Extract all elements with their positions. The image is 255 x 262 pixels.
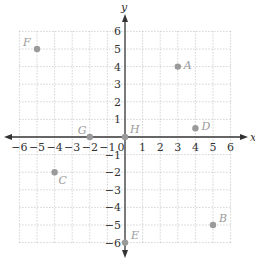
y-tick-label: 6 bbox=[114, 25, 121, 38]
point-label-c: C bbox=[59, 174, 68, 187]
point-label-d: D bbox=[200, 120, 210, 133]
y-tick-label: 4 bbox=[114, 61, 121, 74]
coordinate-plane: xy −6−5−4−3−2−10123456−6−5−4−3−2−1123456… bbox=[0, 0, 255, 262]
x-tick-label: −5 bbox=[29, 141, 45, 154]
point-c bbox=[51, 169, 57, 175]
x-tick-label: 4 bbox=[192, 141, 199, 154]
x-tick-label: 5 bbox=[210, 141, 217, 154]
point-e bbox=[122, 239, 128, 245]
x-tick-label: 3 bbox=[174, 141, 181, 154]
point-h bbox=[122, 134, 128, 140]
x-axis-label: x bbox=[250, 131, 255, 144]
x-tick-label: −3 bbox=[64, 141, 80, 154]
y-tick-label: 2 bbox=[114, 96, 121, 109]
y-axis-up-arrow-icon bbox=[122, 14, 128, 22]
x-tick-label: −4 bbox=[46, 141, 62, 154]
point-label-b: B bbox=[218, 212, 227, 225]
y-tick-label: −1 bbox=[105, 149, 121, 162]
x-tick-label: −2 bbox=[82, 141, 98, 154]
x-tick-label: 6 bbox=[227, 141, 234, 154]
y-tick-label: 3 bbox=[114, 78, 121, 91]
y-tick-label: 1 bbox=[114, 113, 121, 126]
y-axis-down-arrow-icon bbox=[122, 250, 128, 258]
point-f bbox=[34, 46, 40, 52]
point-g bbox=[87, 134, 93, 140]
point-label-g: G bbox=[78, 124, 87, 137]
point-label-a: A bbox=[183, 59, 192, 72]
x-tick-label: 1 bbox=[139, 141, 146, 154]
x-tick-label: −6 bbox=[11, 141, 27, 154]
x-axis-right-arrow-icon bbox=[240, 134, 248, 140]
y-tick-label: 5 bbox=[114, 43, 121, 56]
y-tick-label: −4 bbox=[105, 201, 121, 214]
x-axis-left-arrow-icon bbox=[4, 134, 12, 140]
y-tick-label: −5 bbox=[105, 219, 121, 232]
point-d bbox=[192, 125, 198, 131]
y-axis-label: y bbox=[120, 1, 128, 14]
x-tick-label: 2 bbox=[157, 141, 164, 154]
point-a bbox=[175, 63, 181, 69]
y-tick-label: −6 bbox=[105, 237, 121, 250]
y-tick-label: −3 bbox=[105, 184, 121, 197]
point-label-f: F bbox=[22, 36, 31, 49]
y-tick-label: −2 bbox=[105, 166, 121, 179]
point-label-e: E bbox=[130, 229, 139, 242]
point-b bbox=[210, 222, 216, 228]
point-label-h: H bbox=[129, 123, 140, 136]
